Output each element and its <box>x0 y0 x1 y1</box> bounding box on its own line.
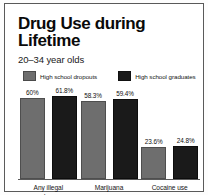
bar-graduates <box>173 146 198 179</box>
category-label-line1: Marijuana <box>79 184 140 193</box>
bar-value-label: 23.6% <box>145 138 163 145</box>
category-labels: Any illegal drug Marijuana use Cocaine u… <box>18 184 200 195</box>
category-label-line1: Cocaine use <box>139 184 200 193</box>
bar-value-label: 58.3% <box>84 92 102 99</box>
bar-dropouts <box>20 98 45 179</box>
chart-figure: Drug Use during Lifetime 20–34 year olds… <box>0 0 208 195</box>
chart-border-frame: Drug Use during Lifetime 20–34 year olds… <box>4 3 204 192</box>
category-label-line2: use <box>79 193 140 196</box>
category-label-line1: Any illegal <box>18 184 79 193</box>
bar-graduates <box>113 99 138 179</box>
black-swatch-icon <box>118 71 131 81</box>
bar-wrap-dropouts-0: 60% <box>19 85 46 179</box>
chart-subtitle: 20–34 year olds <box>14 49 204 65</box>
bar-group-marijuana-use: 58.3% 59.4% <box>79 85 140 179</box>
bar-wrap-graduates-2: 24.8% <box>172 85 199 179</box>
category-label-line2: drug <box>18 193 79 196</box>
bar-groups: 60% 61.8% 58.3% <box>18 85 200 179</box>
bar-wrap-dropouts-2: 23.6% <box>140 85 167 179</box>
chart-plot-area: 60% 61.8% 58.3% <box>18 85 200 180</box>
bar-wrap-graduates-0: 61.8% <box>51 85 78 179</box>
x-axis-baseline <box>18 179 200 180</box>
bar-group-cocaine-use: 23.6% 24.8% <box>139 85 200 179</box>
category-label-marijuana-use: Marijuana use <box>79 184 140 195</box>
legend-item-graduates: High school graduates <box>118 71 196 81</box>
legend-item-dropouts: High school dropouts <box>23 71 97 81</box>
bar-value-label: 59.4% <box>116 90 134 97</box>
legend-label-dropouts: High school dropouts <box>40 73 97 80</box>
chart-inner-area: Drug Use during Lifetime 20–34 year olds… <box>14 11 204 192</box>
bar-graduates <box>52 96 77 179</box>
category-label-any-illegal-drug: Any illegal drug <box>18 184 79 195</box>
bar-group-any-illegal-drug: 60% 61.8% <box>18 85 79 179</box>
bar-value-label: 24.8% <box>177 137 195 144</box>
bar-wrap-graduates-1: 59.4% <box>112 85 139 179</box>
gray-swatch-icon <box>23 71 36 81</box>
chart-title: Drug Use during Lifetime <box>14 11 168 49</box>
chart-legend: High school dropouts High school graduat… <box>14 65 204 81</box>
bar-dropouts <box>81 101 106 179</box>
bar-value-label: 60% <box>26 89 39 96</box>
bar-wrap-dropouts-1: 58.3% <box>80 85 107 179</box>
category-label-cocaine-use: Cocaine use <box>139 184 200 195</box>
legend-label-graduates: High school graduates <box>135 73 196 80</box>
bar-value-label: 61.8% <box>56 87 74 94</box>
bar-dropouts <box>141 147 166 179</box>
